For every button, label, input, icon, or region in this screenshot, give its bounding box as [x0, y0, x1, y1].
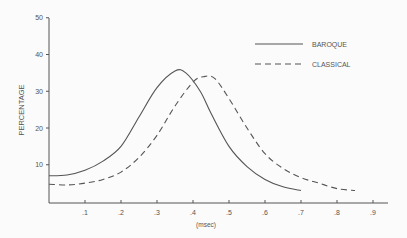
x-axis-label: (msec) — [196, 221, 216, 229]
x-tick-label: .1 — [82, 209, 88, 216]
line-chart: 1020304050 .1.2.3.4.5.6.7.8.9 PERCENTAGE… — [0, 0, 407, 238]
legend-label-baroque: BAROQUE — [312, 41, 347, 49]
x-tick-label: .6 — [262, 209, 268, 216]
x-tick-label: .4 — [190, 209, 196, 216]
legend: BAROQUECLASSICAL — [255, 41, 351, 68]
x-tick-label: .9 — [370, 209, 376, 216]
y-tick-label: 50 — [35, 14, 43, 21]
x-tick-label: .5 — [226, 209, 232, 216]
y-axis-label: PERCENTAGE — [17, 84, 26, 135]
x-tick-label: .8 — [334, 209, 340, 216]
series-line-baroque — [49, 70, 301, 191]
series-line-classical — [49, 76, 355, 191]
y-tick-label: 10 — [35, 161, 43, 168]
legend-label-classical: CLASSICAL — [312, 61, 351, 68]
y-tick-label: 30 — [35, 88, 43, 95]
x-tick-label: .2 — [118, 209, 124, 216]
y-tick-label: 20 — [35, 125, 43, 132]
x-tick-label: .3 — [154, 209, 160, 216]
y-tick-label: 40 — [35, 51, 43, 58]
x-tick-label: .7 — [298, 209, 304, 216]
series-lines — [49, 70, 355, 191]
y-ticks: 1020304050 — [35, 14, 49, 168]
x-ticks: .1.2.3.4.5.6.7.8.9 — [82, 200, 376, 216]
